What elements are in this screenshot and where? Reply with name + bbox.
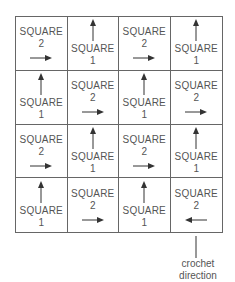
arrow-up-icon bbox=[37, 73, 45, 95]
square-number: 1 bbox=[141, 109, 147, 121]
grid-cell: SQUARE2 bbox=[119, 125, 171, 179]
grid-cell: SQUARE1 bbox=[119, 178, 171, 232]
square-layout-grid: SQUARE2SQUARE1SQUARE2SQUARE1SQUARE1SQUAR… bbox=[15, 16, 223, 233]
arrow-right-icon bbox=[185, 108, 207, 116]
square-number: 2 bbox=[141, 146, 147, 158]
cell-label: SQUARE bbox=[20, 26, 63, 38]
cell-label: SQUARE bbox=[71, 80, 114, 92]
square-number: 2 bbox=[193, 200, 199, 212]
square-number: 1 bbox=[38, 109, 44, 121]
grid-cell: SQUARE2 bbox=[16, 125, 68, 179]
grid-cell: SQUARE2 bbox=[171, 178, 223, 232]
arrow-up-icon bbox=[140, 181, 148, 203]
arrow-up-icon bbox=[89, 127, 97, 149]
crochet-direction-arrow-icon bbox=[192, 236, 200, 258]
grid-cell: SQUARE2 bbox=[119, 17, 171, 71]
cell-label: SQUARE bbox=[20, 134, 63, 146]
square-number: 2 bbox=[38, 146, 44, 158]
square-number: 1 bbox=[193, 55, 199, 67]
grid-cell: SQUARE1 bbox=[171, 17, 223, 71]
square-number: 1 bbox=[90, 163, 96, 175]
arrow-up-icon bbox=[89, 19, 97, 41]
grid-cell: SQUARE1 bbox=[16, 71, 68, 125]
cell-label: SQUARE bbox=[123, 205, 166, 217]
arrow-up-icon bbox=[192, 127, 200, 149]
square-number: 2 bbox=[90, 200, 96, 212]
square-number: 1 bbox=[38, 217, 44, 229]
cell-label: SQUARE bbox=[20, 97, 63, 109]
square-number: 1 bbox=[141, 217, 147, 229]
arrow-right-icon bbox=[82, 216, 104, 224]
arrow-right-icon bbox=[82, 108, 104, 116]
arrow-up-icon bbox=[192, 19, 200, 41]
square-number: 2 bbox=[38, 38, 44, 50]
cell-label: SQUARE bbox=[175, 188, 218, 200]
grid-cell: SQUARE1 bbox=[171, 125, 223, 179]
arrow-up-icon bbox=[140, 73, 148, 95]
square-number: 1 bbox=[193, 163, 199, 175]
cell-label: SQUARE bbox=[175, 151, 218, 163]
arrow-right-icon bbox=[30, 54, 52, 62]
grid-cell: SQUARE1 bbox=[68, 17, 120, 71]
grid-cell: SQUARE1 bbox=[68, 125, 120, 179]
square-number: 2 bbox=[90, 92, 96, 104]
cell-label: SQUARE bbox=[123, 26, 166, 38]
cell-label: SQUARE bbox=[20, 205, 63, 217]
cell-label: SQUARE bbox=[71, 43, 114, 55]
square-number: 2 bbox=[141, 38, 147, 50]
caption-line-2: direction bbox=[170, 270, 226, 282]
square-number: 2 bbox=[193, 92, 199, 104]
grid-cell: SQUARE1 bbox=[16, 178, 68, 232]
arrow-right-icon bbox=[133, 54, 155, 62]
crochet-direction-caption: crochet direction bbox=[170, 258, 226, 282]
arrow-up-icon bbox=[37, 181, 45, 203]
grid-cell: SQUARE2 bbox=[16, 17, 68, 71]
cell-label: SQUARE bbox=[71, 188, 114, 200]
arrow-right-icon bbox=[30, 162, 52, 170]
grid-cell: SQUARE2 bbox=[68, 71, 120, 125]
arrow-right-icon bbox=[133, 162, 155, 170]
arrow-left-icon bbox=[185, 216, 207, 224]
square-number: 1 bbox=[90, 55, 96, 67]
cell-label: SQUARE bbox=[175, 80, 218, 92]
cell-label: SQUARE bbox=[123, 97, 166, 109]
grid-cell: SQUARE2 bbox=[171, 71, 223, 125]
grid-cell: SQUARE2 bbox=[68, 178, 120, 232]
cell-label: SQUARE bbox=[175, 43, 218, 55]
caption-line-1: crochet bbox=[170, 258, 226, 270]
cell-label: SQUARE bbox=[71, 151, 114, 163]
cell-label: SQUARE bbox=[123, 134, 166, 146]
grid-cell: SQUARE1 bbox=[119, 71, 171, 125]
